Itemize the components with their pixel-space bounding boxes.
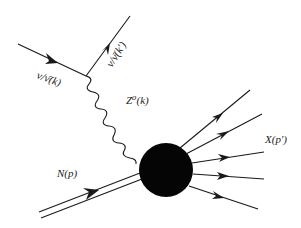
incoming-nucleon-label: N(p) <box>56 167 78 180</box>
outgoing-lepton-label: ν/ν̄(k′) <box>104 39 130 69</box>
boson-wavy-line <box>86 76 136 164</box>
hadron-line-5 <box>189 186 258 209</box>
feynman-diagram: ν/ν̄(k) ν/ν̄(k′) Z⁰(k) N(p) X(p′) <box>0 0 301 228</box>
hadron-line-4 <box>193 172 264 180</box>
incoming-lepton-label: ν/ν̄(k) <box>35 69 63 90</box>
boson-label: Z⁰(k) <box>126 94 149 107</box>
final-state-label: X(p′) <box>264 133 287 146</box>
outgoing-hadron-lines <box>180 90 264 209</box>
hadron-line-3 <box>192 152 264 163</box>
incoming-nucleon-line <box>39 173 142 218</box>
arrow-icon <box>45 53 58 64</box>
incoming-lepton-line <box>18 44 86 76</box>
hadron-blob <box>139 143 193 197</box>
